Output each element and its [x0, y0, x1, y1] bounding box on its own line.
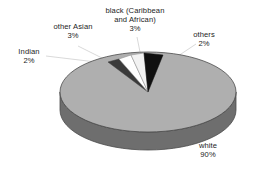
slice-label-white-value: 90%: [186, 150, 230, 159]
pie-chart-figure: other Asian 3% black (Caribbean and Afri…: [0, 0, 262, 173]
slice-label-black-value: 3%: [98, 24, 172, 33]
slice-label-indian-value: 2%: [6, 56, 52, 65]
slice-label-other-asian-text: other Asian: [42, 22, 104, 31]
slice-label-white-text: white: [186, 141, 230, 150]
slice-label-others-value: 2%: [182, 39, 226, 48]
slice-label-other-asian: other Asian 3%: [42, 22, 104, 40]
slice-label-black: black (Caribbean and African) 3%: [98, 6, 172, 34]
slice-label-others-text: others: [182, 30, 226, 39]
slice-label-black-text-line2: and African): [98, 15, 172, 24]
slice-label-white: white 90%: [186, 141, 230, 159]
slice-label-indian-text: Indian: [6, 47, 52, 56]
slice-label-black-text-line1: black (Caribbean: [98, 6, 172, 15]
slice-label-others: others 2%: [182, 30, 226, 48]
slice-label-indian: Indian 2%: [6, 47, 52, 65]
slice-label-other-asian-value: 3%: [42, 31, 104, 40]
pie-top-surface: [60, 52, 236, 132]
